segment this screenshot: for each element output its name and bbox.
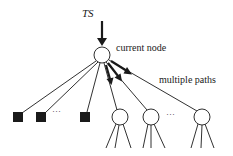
leaf-node	[36, 112, 46, 122]
edges-to-children	[104, 60, 197, 111]
child-node	[112, 109, 128, 125]
child-node	[143, 109, 159, 125]
edges-to-leaves	[22, 61, 100, 113]
current-node-label: current node	[116, 42, 166, 53]
leaf-node	[13, 112, 23, 122]
multiple-paths-label: multiple paths	[159, 74, 216, 85]
leaf-node	[80, 112, 90, 122]
ts-label: TS	[82, 7, 94, 19]
arrowheads	[107, 67, 133, 85]
leaf-ellipsis: ···	[52, 106, 61, 116]
child-subtree	[191, 124, 214, 148]
child-ellipsis: ···	[166, 109, 175, 119]
child-node	[194, 109, 210, 125]
ts-entry-arrow	[97, 21, 107, 46]
child-subtree	[106, 124, 131, 148]
current-node	[94, 47, 110, 63]
child-subtree	[143, 124, 165, 148]
